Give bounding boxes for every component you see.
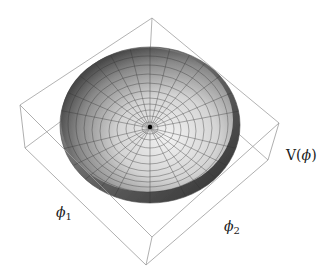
- phi-symbol: ϕ: [302, 147, 312, 163]
- phi1-axis-label: ϕ1: [56, 204, 72, 220]
- phi1-symbol: ϕ: [56, 204, 66, 220]
- phi1-subscript: 1: [66, 211, 72, 222]
- surface-plot-graphic: [0, 0, 325, 280]
- phi2-subscript: 2: [234, 225, 240, 236]
- v-phi-axis-label: V(ϕ): [286, 147, 317, 163]
- phi2-axis-label: ϕ2: [224, 218, 240, 234]
- bowl-surface: [58, 40, 245, 210]
- potential-plot: V(ϕ) ϕ1 ϕ2: [0, 0, 325, 280]
- minimum-point-marker: [148, 125, 152, 129]
- phi2-symbol: ϕ: [224, 218, 234, 234]
